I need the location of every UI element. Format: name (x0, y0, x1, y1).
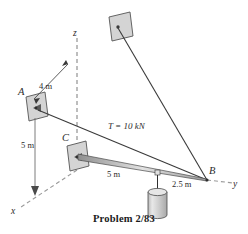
top-anchor-plate (109, 12, 133, 41)
dimension-label-5m-boom: 5 m (107, 170, 120, 179)
dimension-label-2p5m: 2.5 m (172, 180, 191, 189)
boom-c-to-b (78, 154, 207, 181)
axis-y-line (207, 180, 233, 183)
statics-diagram (0, 0, 248, 234)
axis-label-z: z (73, 29, 77, 39)
tension-label: T = 10 kN (108, 122, 145, 131)
axis-x-line (21, 170, 77, 207)
axis-label-y: y (233, 180, 237, 190)
figure-caption: Problem 2/83 (0, 213, 248, 224)
point-label-a: A (18, 87, 24, 98)
dimension-label-5m-vertical: 5 m (21, 141, 34, 150)
cable-top-to-b (118, 28, 207, 180)
point-label-b: B (209, 166, 215, 177)
dimension-5m-vertical (31, 118, 39, 196)
dimension-label-4m: 4 m (39, 82, 52, 91)
point-b-node (205, 178, 208, 181)
figure-container: A C B z x y 4 m 5 m 5 m 2.5 m T = 10 kN … (0, 0, 248, 234)
point-label-c: C (62, 133, 69, 144)
boom-collar (155, 170, 160, 175)
